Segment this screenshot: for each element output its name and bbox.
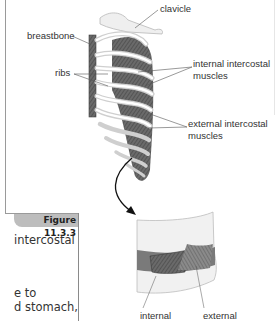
- label-detail-external: external: [203, 310, 237, 321]
- body-text-line-2: e to: [14, 286, 36, 300]
- breastbone-shape: [89, 35, 96, 117]
- label-ribs: ribs: [55, 67, 70, 78]
- body-text-line-3: d stomach,: [14, 300, 78, 314]
- figure-caption-tab: Figure 11.3.3: [14, 214, 78, 227]
- rib-cage-illustration: [0, 0, 277, 321]
- intercostal-detail-illustration: [137, 212, 216, 308]
- label-clavicle: clavicle: [160, 3, 191, 14]
- label-breastbone: breastbone: [27, 30, 75, 41]
- body-text-line-1: intercostal: [14, 233, 75, 247]
- label-internal-intercostal-line2: muscles: [193, 70, 228, 81]
- label-external-intercostal-line1: external intercostal: [188, 118, 268, 129]
- label-internal-intercostal-line1: internal intercostal: [193, 58, 270, 69]
- label-detail-internal: internal: [140, 310, 171, 321]
- label-external-intercostal-line2: muscles: [188, 130, 223, 141]
